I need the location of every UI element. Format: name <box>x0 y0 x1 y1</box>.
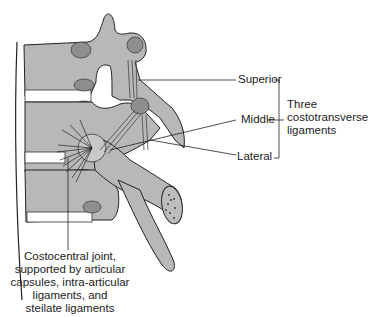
joint-line-1: Costocentral joint, <box>8 250 132 263</box>
joint-line-3: capsules, intra-articular <box>8 276 132 289</box>
facet-6 <box>83 201 101 213</box>
label-lateral: Lateral <box>237 150 272 163</box>
disc-lower <box>27 212 92 222</box>
label-group-title: Three costotransverse ligaments <box>287 98 368 137</box>
group-line-2: costotransverse <box>287 111 368 124</box>
joint-line-4: ligaments, and <box>8 289 132 302</box>
joint-line-2: supported by articular <box>8 263 132 276</box>
group-line-3: ligaments <box>287 124 368 137</box>
label-middle: Middle <box>241 113 275 126</box>
label-superior: Superior <box>238 73 281 86</box>
facet-3 <box>74 79 94 91</box>
label-costocentral-joint: Costocentral joint, supported by articul… <box>8 250 132 315</box>
disc-middle <box>25 152 65 163</box>
joint-line-5: steilate ligaments <box>8 302 132 315</box>
facet-2 <box>127 37 143 53</box>
disc-upper <box>25 90 91 102</box>
group-line-1: Three <box>287 98 368 111</box>
facet-1 <box>71 42 91 58</box>
